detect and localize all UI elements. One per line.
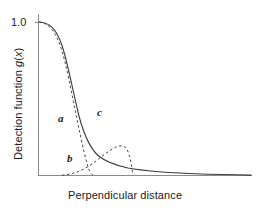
curve-label-b: b: [67, 152, 73, 164]
curve-label-c: c: [97, 106, 102, 118]
y-axis-title-x: x: [12, 51, 24, 57]
x-axis-title-text: Perpendicular distance: [68, 189, 182, 201]
y-axis-tick-label: 1.0: [11, 16, 27, 28]
y-axis-title: Detection function g(x): [12, 48, 24, 160]
detection-function-chart: 1.0 Detection function g(x) Perpendicula…: [0, 0, 262, 211]
x-axis-title: Perpendicular distance: [68, 189, 185, 201]
chart-canvas: [0, 0, 262, 211]
curve-label-a: a: [58, 112, 64, 124]
y-axis-title-text: Detection function: [12, 67, 24, 160]
y-axis-title-paren-open: (: [12, 57, 24, 61]
y-axis-title-g: g: [12, 61, 24, 67]
y-axis-title-paren-close: ): [12, 48, 24, 52]
